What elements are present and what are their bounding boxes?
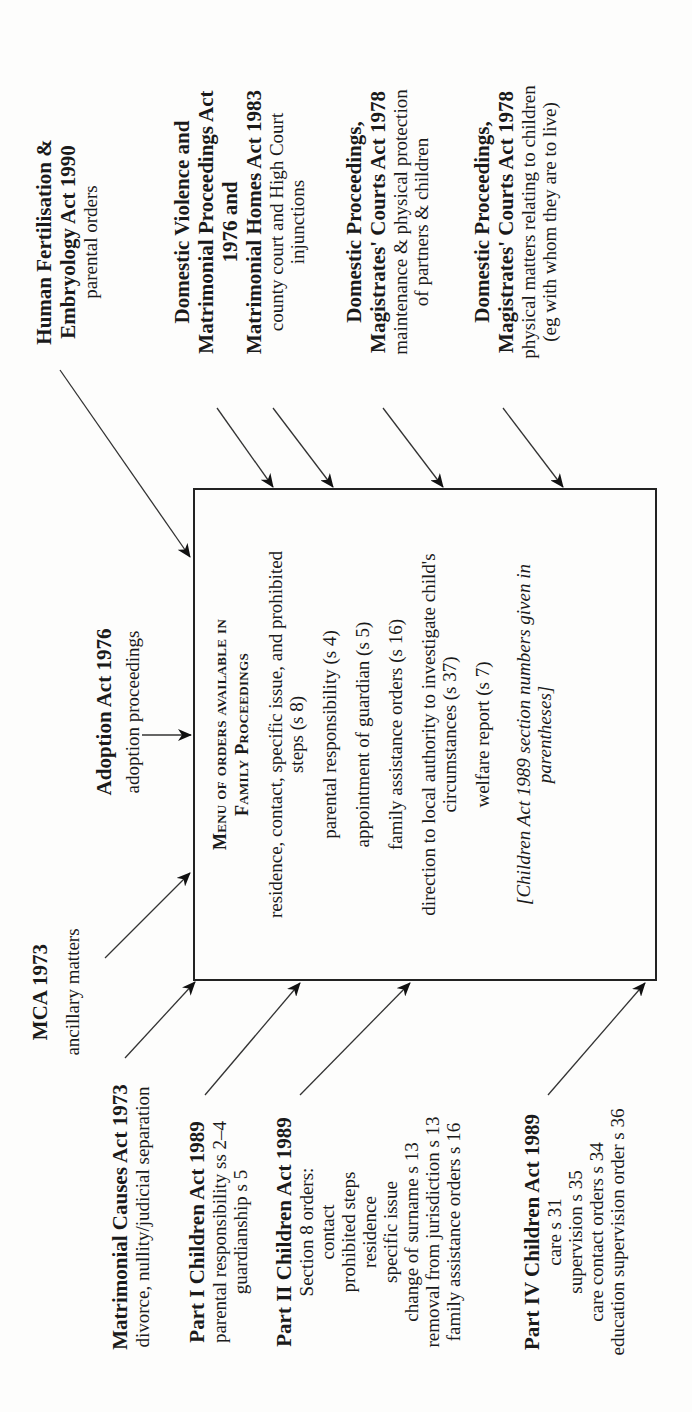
part4-line: care contact orders s 34 xyxy=(586,1082,607,1382)
dvmpa-title-1: Domestic Violence and xyxy=(170,47,194,397)
part2-line: contact xyxy=(317,1082,338,1382)
part2-line: prohibited steps xyxy=(338,1082,359,1382)
dvmpa-detail-2: injunctions xyxy=(287,47,308,397)
adoption-detail: adoption proceedings xyxy=(122,592,143,832)
arrow-mha xyxy=(273,408,333,487)
dpmca2-detail-2: (eg with whom they are to live) xyxy=(539,47,560,397)
part1-detail-1: parental responsibility ss 2–4 xyxy=(209,1082,230,1382)
menu-item-s7: welfare report (s 7) xyxy=(472,500,493,969)
dpmca1-detail-2: of partners & children xyxy=(411,47,432,397)
source-part2: Part II Children Act 1989 Section 8 orde… xyxy=(272,1082,464,1382)
part2-title: Part II Children Act 1989 xyxy=(272,1082,296,1382)
dpmca2-detail-1: physical matters relating to children xyxy=(518,47,539,397)
part4-line: supervision s 35 xyxy=(565,1082,586,1382)
menu-item-s5: appointment of guardian (s 5) xyxy=(352,500,373,969)
menu-item-s4: parental responsibility (s 4) xyxy=(319,500,340,969)
mca-detail: divorce, nullity/judicial separation xyxy=(132,1052,153,1382)
part1-title: Part I Children Act 1989 xyxy=(185,1082,209,1382)
source-mca-ancillary: MCA 1973 ancillary matters xyxy=(28,922,83,1062)
part2-line: removal from jurisdiction s 13 xyxy=(422,1082,443,1382)
orders-menu-box: Menu of orders available in Family Proce… xyxy=(193,488,657,981)
part2-line: change of surname s 13 xyxy=(401,1082,422,1382)
menu-title-line2: Family Proceedings xyxy=(232,653,252,816)
arrow-hfea xyxy=(60,370,190,557)
mha-title: Matrimonial Homes Act 1983 xyxy=(242,47,266,397)
mca-ancillary-title: MCA 1973 xyxy=(28,922,52,1062)
arrow-part4 xyxy=(548,983,645,1095)
source-adoption: Adoption Act 1976 adoption proceedings xyxy=(92,592,143,832)
part2-line: Section 8 orders: xyxy=(296,1082,317,1382)
source-dvmpa-mha: Domestic Violence and Matrimonial Procee… xyxy=(170,47,308,397)
part2-line: specific issue xyxy=(380,1082,401,1382)
dpmca1-title-2: Magistrates' Courts Act 1978 xyxy=(366,47,390,397)
arrow-dpmca-1 xyxy=(383,408,443,487)
hfea-title: Human Fertilisation & Embryology Act 199… xyxy=(32,102,80,382)
source-dpmca-1: Domestic Proceedings, Magistrates' Court… xyxy=(342,47,432,397)
dpmca1-detail-1: maintenance & physical protection xyxy=(390,47,411,397)
source-part1: Part I Children Act 1989 parental respon… xyxy=(185,1082,251,1382)
dpmca2-title-1: Domestic Proceedings, xyxy=(470,47,494,397)
source-dpmca-2: Domestic Proceedings, Magistrates' Court… xyxy=(470,47,560,397)
part2-line: residence xyxy=(359,1082,380,1382)
arrow-part2 xyxy=(300,983,410,1095)
part1-detail-2: guardianship s 5 xyxy=(230,1082,251,1382)
menu-note: [Children Act 1989 section numbers given… xyxy=(513,500,555,969)
dvmpa-title-3: 1976 and xyxy=(218,47,242,397)
source-mca: Matrimonial Causes Act 1973 divorce, nul… xyxy=(108,1052,153,1382)
source-part4: Part IV Children Act 1989 care s 31 supe… xyxy=(520,1082,628,1382)
diagram-canvas: Menu of orders available in Family Proce… xyxy=(0,0,692,1412)
part4-line: care s 31 xyxy=(544,1082,565,1382)
menu-title: Menu of orders available in Family Proce… xyxy=(209,500,253,969)
mca-title: Matrimonial Causes Act 1973 xyxy=(108,1052,132,1382)
dpmca2-title-2: Magistrates' Courts Act 1978 xyxy=(494,47,518,397)
adoption-title: Adoption Act 1976 xyxy=(92,592,116,832)
dvmpa-title-2: Matrimonial Proceedings Act xyxy=(194,47,218,397)
arrow-dvmpa xyxy=(217,408,273,487)
part4-line: education supervision order s 36 xyxy=(607,1082,628,1382)
menu-item-s8: residence, contact, specific issue, and … xyxy=(265,500,307,969)
arrow-dpmca-2 xyxy=(503,408,563,487)
part2-line: family assistance orders s 16 xyxy=(443,1082,464,1382)
part4-title: Part IV Children Act 1989 xyxy=(520,1082,544,1382)
menu-item-s16: family assistance orders (s 16) xyxy=(385,500,406,969)
menu-item-s37: direction to local authority to investig… xyxy=(418,500,460,969)
arrow-mca xyxy=(125,982,195,1058)
hfea-detail: parental orders xyxy=(80,102,101,382)
arrow-part1 xyxy=(205,983,300,1095)
dvmpa-detail-1: county court and High Court xyxy=(266,47,287,397)
dpmca1-title-1: Domestic Proceedings, xyxy=(342,47,366,397)
arrow-mca-ancillary xyxy=(105,873,190,958)
mca-ancillary-detail: ancillary matters xyxy=(62,922,83,1062)
menu-title-line1: Menu of orders available in xyxy=(210,619,230,850)
source-hfea: Human Fertilisation & Embryology Act 199… xyxy=(32,102,101,382)
